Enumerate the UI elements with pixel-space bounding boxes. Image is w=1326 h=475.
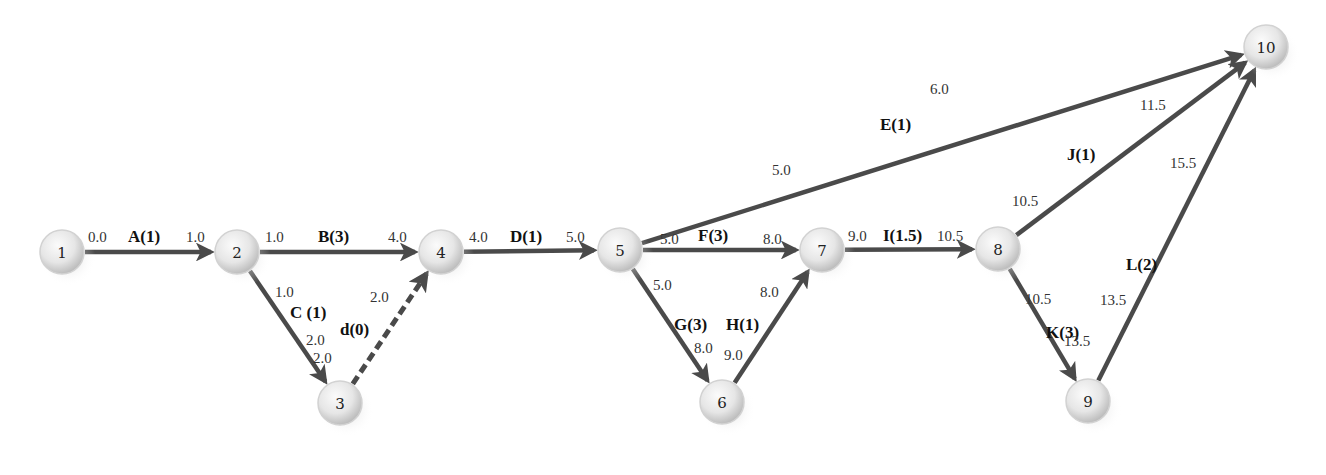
activity-label-D: D(1) <box>510 227 542 246</box>
node-3: 3 <box>318 381 374 437</box>
node-6: 6 <box>700 380 756 436</box>
start-time-d: 2.0 <box>370 289 389 305</box>
start-time-F: 5.0 <box>660 231 679 247</box>
node-label: 10 <box>1256 39 1275 57</box>
node-label: 8 <box>993 241 1003 259</box>
node-label: 9 <box>1083 393 1093 411</box>
network-diagram: 12345678910 A(1)0.01.0B(3)1.04.0C (1)1.0… <box>0 0 1326 475</box>
start-time-J: 10.5 <box>1012 193 1038 209</box>
node-label: 1 <box>57 244 67 262</box>
activity-label-A: A(1) <box>128 227 160 246</box>
end-time-D: 5.0 <box>566 229 585 245</box>
activity-label-F: F(3) <box>698 226 728 245</box>
start-time-E: 5.0 <box>772 162 791 178</box>
edge-D-arrow <box>464 250 594 251</box>
end-time-B: 4.0 <box>388 229 407 245</box>
end-time-K: 13.5 <box>1064 333 1090 349</box>
node-label: 4 <box>436 244 446 262</box>
end-time-A: 1.0 <box>186 229 205 245</box>
start-time-A: 0.0 <box>88 229 107 245</box>
end-time-C: 2.0 <box>306 332 325 348</box>
node-label: 2 <box>232 244 242 262</box>
activity-label-L: L(2) <box>1126 255 1157 274</box>
node-9: 9 <box>1066 379 1122 435</box>
node-8: 8 <box>976 227 1032 283</box>
activity-label-J: J(1) <box>1067 145 1095 164</box>
end-time-H: 9.0 <box>724 347 743 363</box>
node-10: 10 <box>1244 25 1300 81</box>
end-time-J: 11.5 <box>1140 97 1166 113</box>
start-time-I: 9.0 <box>848 228 867 244</box>
node-4: 4 <box>419 230 475 286</box>
end-time-F: 8.0 <box>763 231 782 247</box>
end-time-G: 8.0 <box>694 340 713 356</box>
start-time-G: 5.0 <box>653 277 672 293</box>
activity-label-G: G(3) <box>674 315 707 334</box>
node-5: 5 <box>598 228 654 284</box>
edge-I-arrow <box>845 249 972 250</box>
activity-label-E: E(1) <box>880 115 911 134</box>
activity-label-B: B(3) <box>318 227 349 246</box>
activity-label-d: d(0) <box>340 320 369 339</box>
end-time-I: 10.5 <box>937 228 963 244</box>
activity-label-C: C (1) <box>290 303 326 322</box>
start-time-L: 13.5 <box>1100 292 1126 308</box>
end-time-L: 15.5 <box>1170 155 1196 171</box>
end-time-d: 2.0 <box>313 350 332 366</box>
start-time-H: 8.0 <box>760 284 779 300</box>
activity-label-H: H(1) <box>726 315 759 334</box>
node-label: 5 <box>615 242 625 260</box>
node-label: 3 <box>335 395 345 413</box>
node-2: 2 <box>215 230 271 286</box>
start-time-B: 1.0 <box>265 229 284 245</box>
node-label: 7 <box>817 242 827 260</box>
end-time-E: 6.0 <box>930 81 949 97</box>
activity-label-I: I(1.5) <box>883 226 922 245</box>
node-label: 6 <box>717 394 727 412</box>
start-time-D: 4.0 <box>469 229 488 245</box>
start-time-K: 10.5 <box>1025 291 1051 307</box>
start-time-C: 1.0 <box>275 284 294 300</box>
